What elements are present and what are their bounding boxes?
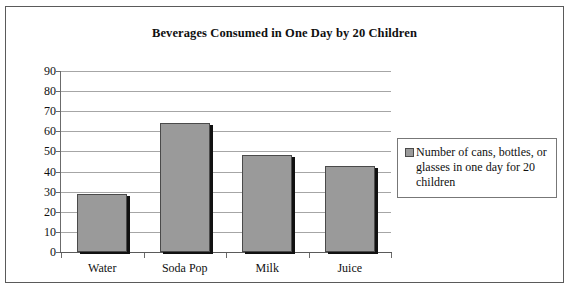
bar <box>325 71 375 252</box>
bar-body <box>242 155 292 252</box>
legend-entry-label: Number of cans, bottles, or glasses in o… <box>416 145 549 190</box>
y-axis-tick-label: 20 <box>26 204 56 219</box>
x-axis-category-label: Milk <box>226 261 309 276</box>
plot-area <box>61 71 391 252</box>
y-axis-tick-label: 50 <box>26 144 56 159</box>
x-axis-category-label: Juice <box>309 261 392 276</box>
x-axis-tick-mark <box>144 253 145 258</box>
bar-body <box>160 123 210 252</box>
y-axis-tick-label: 10 <box>26 224 56 239</box>
bar-body <box>325 166 375 252</box>
y-axis-tick-label: 0 <box>26 245 56 260</box>
x-axis-category-label: Soda Pop <box>144 261 227 276</box>
x-axis-category-label: Water <box>61 261 144 276</box>
y-axis-tick-label: 80 <box>26 84 56 99</box>
y-axis-tick-label: 70 <box>26 104 56 119</box>
bar <box>77 71 127 252</box>
y-axis-tick-label: 40 <box>26 164 56 179</box>
x-axis-tick-mark <box>391 253 392 258</box>
y-axis-tick-label: 30 <box>26 184 56 199</box>
x-axis-tick-mark <box>309 253 310 258</box>
y-axis-tick-labels: 9080706050403020100 <box>24 71 56 252</box>
chart-legend: Number of cans, bottles, or glasses in o… <box>397 138 557 198</box>
legend-entry: Number of cans, bottles, or glasses in o… <box>405 145 549 190</box>
x-axis-tick-mark <box>61 253 62 258</box>
y-axis-tick-label: 60 <box>26 124 56 139</box>
y-axis-tick-label: 90 <box>26 64 56 79</box>
bar-body <box>77 194 127 252</box>
bar <box>160 71 210 252</box>
bar <box>242 71 292 252</box>
legend-swatch-icon <box>405 148 414 157</box>
x-axis-tick-mark <box>226 253 227 258</box>
chart-title: Beverages Consumed in One Day by 20 Chil… <box>6 26 563 41</box>
chart-frame: Beverages Consumed in One Day by 20 Chil… <box>5 6 564 283</box>
